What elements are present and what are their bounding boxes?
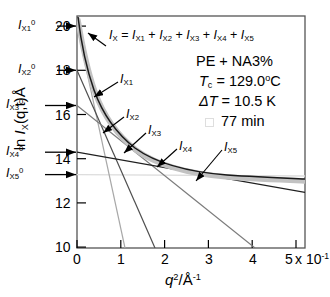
- x-axis-multiplier: x 10-1: [295, 252, 329, 266]
- intercept-subscript: X2: [21, 68, 30, 77]
- intercept-superscript: 0: [19, 144, 23, 153]
- equation-term-subscript: X3: [190, 34, 199, 43]
- equation-term-subscript: X2: [163, 34, 172, 43]
- x-tick-label-5: 5: [285, 252, 293, 266]
- equation-equals: =: [118, 28, 132, 42]
- intercept-subscript: X4: [9, 150, 18, 159]
- y-tick-label-14: 14: [55, 152, 71, 166]
- delta-t-value: = 10.5 K: [218, 93, 276, 109]
- intercept-label-ix2: IX20: [18, 63, 35, 77]
- x-tick-label-0: 0: [73, 252, 81, 266]
- multiplier-text: x 10: [295, 251, 321, 267]
- x-tick-label-2: 2: [161, 252, 169, 266]
- equation-term-subscript: X4: [217, 34, 226, 43]
- x-axis-label-unit: /Å: [179, 271, 193, 288]
- curve-label-subscript: X2: [129, 113, 138, 122]
- intercept-label-ix4: IX40: [6, 145, 23, 159]
- intercept-label-ix3: IX30: [6, 98, 23, 112]
- tc-unit: C: [270, 73, 280, 89]
- x-axis-label: q2/Å-1: [165, 272, 201, 287]
- equation-term-subscript: X1: [135, 34, 144, 43]
- plot-frame: [77, 16, 305, 248]
- curve-label-subscript: X5: [227, 146, 236, 155]
- curve-label-ix1: IX1: [120, 73, 133, 87]
- y-tick-label-10: 10: [55, 240, 71, 254]
- figure-root: ln IX(q,t)Å 20 18 16 14 12 10 IX10 IX20 …: [0, 0, 330, 297]
- elapsed-time-label: 77 min: [221, 113, 265, 129]
- multiplier-exponent: -1: [321, 251, 329, 261]
- intercept-subscript: X3: [9, 103, 18, 112]
- y-tick-label-20: 20: [55, 19, 71, 33]
- intercept-label-ix5: IX50: [6, 167, 23, 181]
- equation-term-subscript: X5: [244, 34, 253, 43]
- y-tick-label-16: 16: [55, 108, 71, 122]
- curve-label-subscript: X1: [123, 78, 132, 87]
- curve-label-ix2: IX2: [126, 108, 139, 122]
- y-axis-label-subscript: X: [20, 124, 30, 130]
- intercept-subscript: X5: [9, 172, 18, 181]
- curve-label-subscript: X4: [182, 145, 191, 154]
- elapsed-time-legend: 77 min: [205, 114, 265, 129]
- x-tick-label-1: 1: [117, 252, 125, 266]
- y-axis-label-symbol: I: [11, 130, 28, 134]
- supercooling-label: ΔT = 10.5 K: [199, 94, 276, 109]
- intercept-superscript: 0: [19, 166, 23, 175]
- tc-value: = 129.0: [212, 73, 265, 89]
- sample-material-label: PE + NA3%: [196, 54, 273, 69]
- open-square-marker-icon: [205, 118, 214, 127]
- x-axis-label-unit-exponent: -1: [193, 272, 201, 282]
- curve-label-ix5: IX5: [224, 141, 237, 155]
- y-tick-label-12: 12: [55, 196, 71, 210]
- intercept-subscript: X1: [21, 24, 30, 33]
- curve-label-subscript: X3: [151, 129, 160, 138]
- y-tick-label-18: 18: [55, 63, 71, 77]
- intercept-superscript: 0: [31, 18, 35, 27]
- intercept-superscript: 0: [31, 62, 35, 71]
- sum-equation-annotation: IX = IX1 + IX2 + IX3 + IX4 + IX5: [109, 29, 254, 43]
- crystallization-temperature-label: Tc = 129.0oC: [199, 74, 281, 90]
- x-tick-label-3: 3: [205, 252, 213, 266]
- curve-label-ix3: IX3: [148, 124, 161, 138]
- tc-symbol: T: [199, 73, 208, 89]
- intercept-superscript: 0: [19, 97, 23, 106]
- x-tick-label-4: 4: [249, 252, 257, 266]
- intercept-label-ix1: IX10: [18, 19, 35, 33]
- delta-t-symbol: ΔT: [199, 93, 218, 109]
- curve-label-ix4: IX4: [179, 140, 192, 154]
